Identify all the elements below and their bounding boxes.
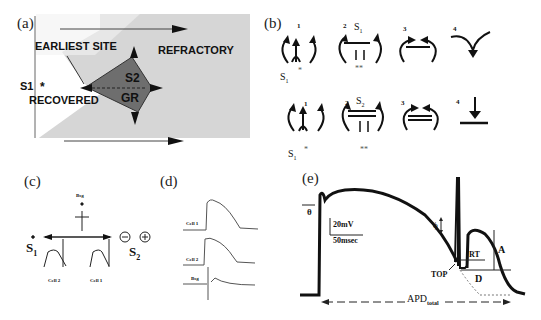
panel-d-diagram bbox=[155, 140, 285, 280]
panel-d-label: (d) bbox=[160, 173, 178, 190]
s2-label: S2 bbox=[129, 244, 140, 262]
b-row2-step2: 2 bbox=[345, 99, 349, 107]
panel-a-label: (a) bbox=[17, 15, 34, 32]
s1-star: * bbox=[40, 80, 45, 94]
b-row1-double-star: ** bbox=[355, 64, 363, 73]
rt-label: RT bbox=[469, 250, 480, 259]
b-row1-star: * bbox=[298, 66, 302, 75]
scale-voltage-label: 20mV bbox=[333, 220, 353, 229]
trace-bsg-label: Bsg bbox=[191, 276, 199, 281]
s2-label: S2 bbox=[125, 71, 140, 85]
b-row1-stim: S1 bbox=[354, 21, 363, 34]
top-label: TOP bbox=[431, 270, 447, 279]
phi-label: ϕ bbox=[433, 220, 438, 230]
threshold-label: θ bbox=[307, 207, 312, 217]
apd-total-label: APDtotal bbox=[405, 293, 441, 306]
gr-label: GR bbox=[121, 91, 139, 105]
panel-d: (d) Cell 1 Cell 2 Bsg bbox=[155, 140, 285, 280]
b-row1-step1: 1 bbox=[297, 22, 301, 30]
b-row1-step4: 4 bbox=[453, 25, 457, 33]
b-row2-step1: 1 bbox=[304, 100, 308, 108]
trace-cell2-label: Cell 2 bbox=[186, 257, 198, 262]
b-row1-step2: 2 bbox=[343, 22, 347, 30]
s1-label: S1 bbox=[20, 80, 33, 92]
recovered-label: RECOVERED bbox=[29, 94, 99, 106]
panel-b-diagram bbox=[270, 0, 541, 140]
b-row1-s1: S1 bbox=[280, 71, 289, 84]
cell2-label: Cell 2 bbox=[48, 278, 60, 283]
b-row1-step3: 3 bbox=[403, 25, 407, 33]
trace-cell1-label: Cell 1 bbox=[186, 221, 198, 226]
b-row2-stim: S2 bbox=[356, 95, 365, 108]
cell1-label: Cell 1 bbox=[90, 278, 102, 283]
panel-e: (e) θ 20mV 50msec ϕ TOP RT D A APDtotal bbox=[285, 140, 541, 320]
panel-b-label: (b) bbox=[264, 15, 282, 32]
scale-time-label: 50msec bbox=[333, 236, 358, 245]
b-row2-step4: 4 bbox=[456, 98, 460, 106]
panel-c: (c) Bsg S1 S2 Cell 2 Cell 1 bbox=[0, 140, 160, 280]
s1-label: S1 bbox=[26, 240, 37, 258]
bsg-label: Bsg bbox=[76, 193, 84, 198]
d-label: D bbox=[475, 273, 482, 284]
panel-a-diagram bbox=[0, 0, 270, 140]
panel-e-label: (e) bbox=[302, 170, 319, 187]
refractory-label: REFRACTORY bbox=[158, 44, 234, 56]
a-label: A bbox=[498, 244, 505, 255]
earliest-site-label: EARLIEST SITE bbox=[35, 40, 117, 52]
b-row2-step3: 3 bbox=[401, 99, 405, 107]
panel-a: (a) EARLIEST SITE REFRACTORY S1 * RECOVE… bbox=[0, 0, 270, 140]
panel-b: (b) 1 2 S1 3 4 S1 * ** 1 2 S2 3 4 bbox=[270, 0, 541, 140]
panel-c-label: (c) bbox=[24, 173, 41, 190]
